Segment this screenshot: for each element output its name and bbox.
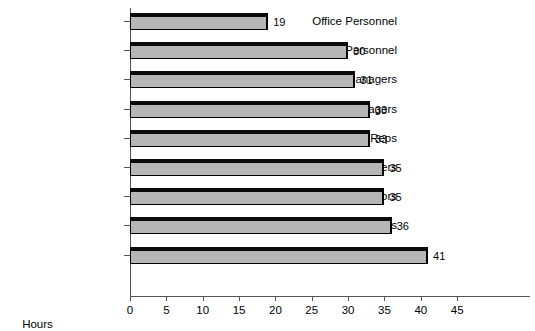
bar [130, 42, 348, 59]
x-axis-tick [203, 296, 204, 301]
x-axis-tick [130, 296, 131, 301]
x-axis-tick-label: 20 [260, 303, 290, 317]
x-axis-tick [348, 296, 349, 301]
bar [130, 247, 428, 264]
x-axis-tick-label: 30 [333, 303, 363, 317]
bar [130, 217, 392, 234]
bar-value-label: 30 [353, 45, 365, 58]
x-axis-tick-label: 40 [406, 303, 436, 317]
bar [130, 188, 384, 205]
bar-value-label: 19 [273, 16, 285, 29]
bar-value-label: 33 [375, 104, 387, 117]
x-axis-tick-label: 45 [442, 303, 472, 317]
bar-value-label: 33 [375, 133, 387, 146]
x-axis-title-label: Hours [22, 318, 53, 330]
category-label: Office Personnel [312, 14, 397, 28]
x-axis-tick-label: 10 [188, 303, 218, 317]
bar-value-label: 36 [397, 220, 409, 233]
x-axis-title: Hours [0, 317, 535, 331]
x-axis-tick-label: 5 [151, 303, 181, 317]
x-axis-tick [421, 296, 422, 301]
bar-value-label: 35 [389, 162, 401, 175]
x-axis-line [130, 296, 530, 297]
x-axis-tick-label: 25 [297, 303, 327, 317]
bar-chart: Office PersonnelProduction PersonnelSeni… [0, 0, 535, 331]
x-axis-tick [312, 296, 313, 301]
bar [130, 130, 370, 147]
x-axis-tick [239, 296, 240, 301]
x-axis-tick [166, 296, 167, 301]
x-axis-tick [457, 296, 458, 301]
bar [130, 159, 384, 176]
x-axis-tick [384, 296, 385, 301]
x-axis-tick-label: 15 [224, 303, 254, 317]
bar [130, 13, 268, 30]
x-axis-tick-label: 0 [115, 303, 145, 317]
bar-value-label: 35 [389, 191, 401, 204]
bar [130, 71, 355, 88]
x-axis-tick [275, 296, 276, 301]
x-axis-tick-label: 35 [369, 303, 399, 317]
bar-value-label: 41 [433, 250, 445, 263]
bar [130, 101, 370, 118]
bar-value-label: 31 [360, 74, 372, 87]
